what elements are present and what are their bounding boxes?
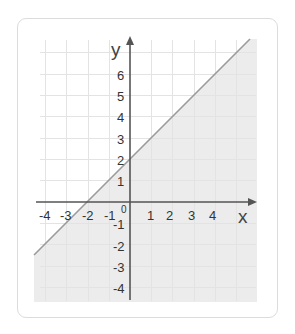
x-tick-label: 3	[188, 208, 195, 223]
y-tick-label: 2	[117, 153, 124, 168]
x-axis-label: x	[238, 206, 248, 227]
y-tick-label: 4	[117, 110, 124, 125]
y-tick-label: -3	[113, 260, 125, 275]
x-tick-label: -4	[39, 208, 51, 223]
y-axis-arrow-icon	[126, 36, 134, 45]
coordinate-plane: y x 0 -4 -3 -2 -1 1 2 3 4 6 5 4 3 2 1 -1…	[0, 0, 295, 334]
y-tick-label: 3	[117, 132, 124, 147]
y-tick-label: -4	[113, 281, 125, 296]
origin-label: 0	[121, 204, 127, 215]
x-tick-label: 2	[166, 208, 173, 223]
x-tick-label: 4	[209, 208, 216, 223]
y-tick-label: 5	[117, 89, 124, 104]
x-tick-label: -2	[82, 208, 94, 223]
y-tick-label: 6	[117, 68, 124, 83]
y-axis-label: y	[111, 39, 121, 60]
y-tick-label: -1	[113, 217, 125, 232]
x-tick-label: -3	[60, 208, 72, 223]
y-tick-label: -2	[113, 239, 125, 254]
x-tick-label: 1	[147, 208, 154, 223]
shaded-region	[34, 39, 257, 302]
y-tick-label: 1	[117, 174, 124, 189]
